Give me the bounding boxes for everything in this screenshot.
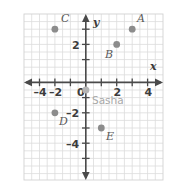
x-axis-label: x (149, 60, 157, 73)
data-point-e (98, 125, 105, 132)
data-point-c-label: C (61, 12, 70, 25)
x-tick-label-neg4: –4 (34, 86, 48, 99)
coordinate-plane-figure: x y –4 –2 0 2 4 2 –2 –4 A B C D E Sasha (0, 0, 176, 192)
data-point-a (129, 26, 136, 33)
data-point-sasha-label: Sasha (92, 94, 124, 106)
y-tick-label-pos2: 2 (72, 39, 80, 52)
y-tick-label-neg4: –4 (66, 138, 80, 151)
y-tick-label-neg2: –2 (66, 107, 79, 120)
data-point-c (52, 26, 59, 33)
coordinate-plane-svg: x y –4 –2 0 2 4 2 –2 –4 A B C D E Sasha (0, 0, 176, 192)
data-point-d (52, 109, 59, 116)
data-point-e-label: E (105, 130, 114, 143)
data-point-b-label: B (104, 48, 113, 61)
x-tick-label-pos4: 4 (145, 86, 153, 99)
data-point-d-label: D (58, 115, 68, 128)
x-tick-label-neg2: –2 (49, 86, 62, 99)
data-point-sasha (82, 86, 89, 93)
data-point-a-label: A (136, 12, 145, 25)
data-point-b (113, 41, 120, 48)
